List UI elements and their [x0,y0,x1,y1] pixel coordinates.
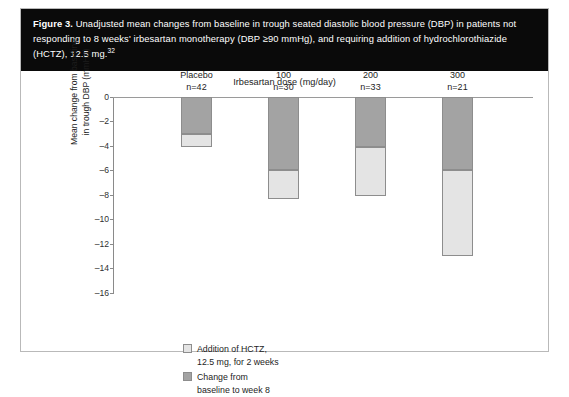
bar-segment-hctz [268,170,299,198]
y-axis-tick-label: –2 [83,116,109,126]
y-axis-tick-label: –10 [83,214,109,224]
figure-caption-reference: 32 [108,47,116,54]
bar-segment-hctz [442,170,473,256]
y-axis-tick-label: –6 [83,165,109,175]
y-axis-tick-label: 0 [83,92,109,102]
figure-caption-text: Unadjusted mean changes from baseline in… [33,18,516,59]
figure-caption-label: Figure 3. [33,18,73,29]
category-label: 100 [239,69,329,81]
y-axis-tick-label: –16 [83,288,109,298]
bar-segment-baseline [181,97,212,134]
y-axis-tick-mark [110,219,114,220]
chart-axes: 0–2–4–6–8–10–12–14–16Placebon=42100n=302… [113,97,533,293]
y-axis-tick-label: –12 [83,239,109,249]
category-label: 200 [326,69,416,81]
category-sample-size: n=33 [326,81,416,93]
category-label: Placebo [152,69,242,81]
y-axis-tick-mark [110,121,114,122]
y-axis-tick-mark [110,146,114,147]
bar-segment-baseline [442,97,473,171]
legend-swatch-dark-icon [183,372,192,381]
legend-item-baseline: Change from baseline to week 8 [183,371,279,397]
bar-segment-hctz [355,147,386,196]
y-axis-tick-mark [110,195,114,196]
legend-item-hctz: Addition of HCTZ, 12.5 mg, for 2 weeks [183,343,279,369]
y-axis-tick-label: –14 [83,263,109,273]
x-axis-category-200: 200n=33 [326,69,416,93]
x-axis-category-placebo: Placebon=42 [152,69,242,93]
y-axis-tick-mark [110,170,114,171]
category-label: 300 [413,69,503,81]
bar-segment-baseline [355,97,386,147]
legend-item-baseline-line1: Change from [197,371,270,384]
bar-segment-baseline [268,97,299,171]
x-axis-category-300: 300n=21 [413,69,503,93]
bar-segment-hctz [181,134,212,147]
y-axis-tick-mark [110,268,114,269]
y-axis-tick-label: –4 [83,141,109,151]
category-sample-size: n=42 [152,81,242,93]
chart-plot-area: Irbesartan dose (mg/day) Mean change fro… [21,71,548,347]
legend-item-baseline-line2: baseline to week 8 [197,384,270,397]
y-axis-title-line1: Mean change from baseline [69,17,81,167]
category-sample-size: n=30 [239,81,329,93]
y-axis-tick-label: –8 [83,190,109,200]
x-axis-category-100: 100n=30 [239,69,329,93]
figure-caption: Figure 3. Unadjusted mean changes from b… [21,9,548,71]
legend-swatch-light-icon [183,344,192,353]
category-sample-size: n=21 [413,81,503,93]
y-axis-tick-mark [110,293,114,294]
legend-item-hctz-line2: 12.5 mg, for 2 weeks [197,356,279,369]
figure-container: Figure 3. Unadjusted mean changes from b… [20,8,549,352]
legend-item-hctz-line1: Addition of HCTZ, [197,343,279,356]
chart-legend: Addition of HCTZ, 12.5 mg, for 2 weeks C… [183,343,279,397]
y-axis-tick-mark [110,244,114,245]
